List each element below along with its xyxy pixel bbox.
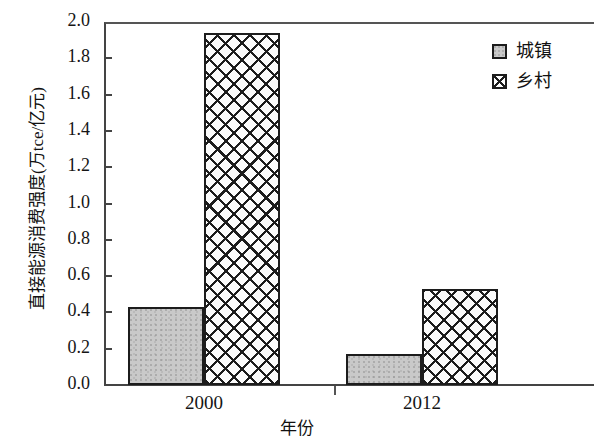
bar-乡村-2012	[422, 289, 498, 385]
y-tick-label: 1.4	[68, 119, 91, 140]
y-axis-title: 直接能源消费强度(万tce/亿元)	[23, 19, 48, 379]
bar-乡村-2000	[204, 33, 280, 385]
legend-swatch-乡村	[492, 74, 507, 89]
y-tick-label: 1.2	[68, 155, 91, 176]
bar-城镇-2012	[346, 354, 422, 385]
x-tick-mark	[334, 386, 336, 395]
y-tick-label: 0.2	[68, 337, 91, 358]
y-tick-label: 0.4	[68, 300, 91, 321]
legend-swatch-城镇	[492, 44, 507, 59]
y-tick-label: 0.6	[68, 264, 91, 285]
y-tick-label: 1.0	[68, 192, 91, 213]
y-tick-label: 1.6	[68, 83, 91, 104]
y-tick-label: 1.8	[68, 46, 91, 67]
y-tick-label: 2.0	[68, 10, 91, 31]
bar-城镇-2000	[128, 307, 204, 385]
legend-label: 乡村	[516, 72, 552, 90]
x-tick-label-2000: 2000	[185, 392, 223, 414]
legend-label: 城镇	[516, 42, 552, 60]
legend-item-城镇: 城镇	[492, 36, 590, 66]
y-tick-label: 0.8	[68, 228, 91, 249]
legend-item-乡村: 乡村	[492, 66, 590, 96]
x-axis-title: 年份	[0, 414, 594, 439]
x-tick-label-2012: 2012	[403, 392, 441, 414]
chart-legend: 城镇乡村	[492, 36, 590, 96]
y-tick-label: 0.0	[68, 373, 91, 394]
